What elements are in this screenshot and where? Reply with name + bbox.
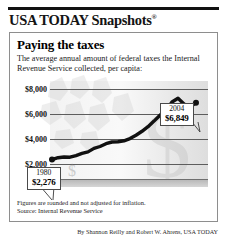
callout-1980: 1980 $2,276 xyxy=(27,167,61,190)
brand-name: USA TODAY Snapshots xyxy=(9,12,152,28)
page-title: Paying the taxes xyxy=(17,37,104,53)
callout-2004-amount: $6,849 xyxy=(165,114,189,123)
registered-mark: ® xyxy=(152,13,157,21)
brand-title: USA TODAY Snapshots® xyxy=(9,12,157,29)
byline: By Shannon Reilly and Robert W. Ahrens, … xyxy=(77,228,218,235)
callout-1980-year: 1980 xyxy=(32,169,56,177)
footnote-source: Source: Internal Revenue Service xyxy=(17,207,146,215)
callout-1980-amount: $2,276 xyxy=(32,178,56,187)
content-panel: Paying the taxes The average annual amou… xyxy=(9,32,218,222)
callout-2004-year: 2004 xyxy=(165,105,189,113)
top-rule xyxy=(8,7,219,10)
chart-container: $ $8,000 $6,000 $4,000 $2,000 xyxy=(10,75,218,200)
footnote: Figures are rounded and not adjusted for… xyxy=(17,199,146,215)
subtitle: The average annual amount of federal tax… xyxy=(17,54,213,73)
snapshot-infographic: USA TODAY Snapshots® Paying the taxes Th… xyxy=(0,0,227,243)
callout-2004: 2004 $6,849 xyxy=(160,103,194,126)
footnote-note: Figures are rounded and not adjusted for… xyxy=(17,199,146,207)
